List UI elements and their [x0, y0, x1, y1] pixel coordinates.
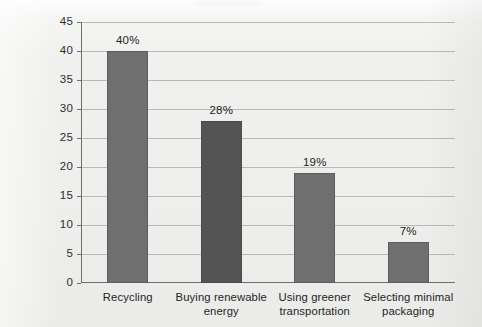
- x-axis-category-label: Recycling: [81, 291, 175, 305]
- x-axis-category-label: Using greenertransportation: [268, 291, 362, 318]
- bar-value-label: 7%: [400, 225, 417, 237]
- y-axis-tick-label: 30: [27, 102, 73, 114]
- bar[interactable]: 7%: [388, 242, 429, 283]
- y-axis-tick-label: 10: [27, 218, 73, 230]
- y-axis-tick-label: 40: [27, 44, 73, 56]
- category-label-line: packaging: [362, 305, 456, 319]
- y-axis-tick-label: 0: [27, 276, 73, 288]
- y-axis-tick-label: 45: [27, 15, 73, 27]
- category-label-line: Selecting minimal: [362, 291, 456, 305]
- bar-rect: [388, 242, 429, 283]
- chart-page: Percent 051015202530354045 40%28%19%7% R…: [0, 0, 482, 327]
- category-label-line: energy: [175, 305, 269, 319]
- bar-rect: [107, 51, 148, 283]
- bar[interactable]: 19%: [294, 173, 335, 283]
- y-axis-tick-label: 25: [27, 131, 73, 143]
- category-label-line: Using greener: [268, 291, 362, 305]
- bar-value-label: 19%: [303, 156, 327, 168]
- y-axis-tick-label: 5: [27, 247, 73, 259]
- x-axis-category-label: Buying renewableenergy: [175, 291, 269, 318]
- y-axis-tick-label: 15: [27, 189, 73, 201]
- bar-value-label: 28%: [209, 104, 233, 116]
- category-label-line: Recycling: [81, 291, 175, 305]
- bar[interactable]: 40%: [107, 51, 148, 283]
- bar-rect: [201, 121, 242, 283]
- plot-area: 40%28%19%7%: [81, 22, 455, 283]
- x-axis-category-label: Selecting minimalpackaging: [362, 291, 456, 318]
- category-label-line: Buying renewable: [175, 291, 269, 305]
- category-label-line: transportation: [268, 305, 362, 319]
- bar-value-label: 40%: [116, 34, 140, 46]
- bar-rect: [294, 173, 335, 283]
- bar[interactable]: 28%: [201, 121, 242, 283]
- y-axis-tick-label: 35: [27, 73, 73, 85]
- y-axis-tick-mark: [77, 283, 81, 284]
- y-axis-tick-label: 20: [27, 160, 73, 172]
